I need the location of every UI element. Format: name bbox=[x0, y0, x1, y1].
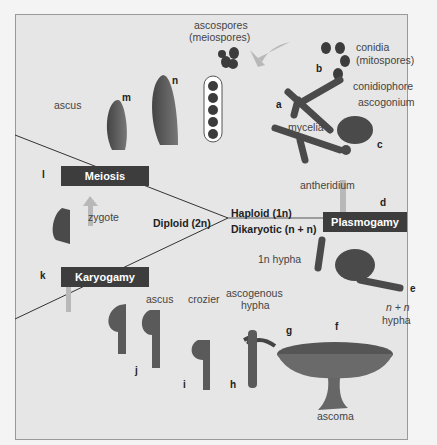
step-k: k bbox=[40, 271, 46, 281]
antheridium-label: antheridium bbox=[300, 180, 355, 191]
step-l: l bbox=[42, 170, 45, 180]
diploid-label: Diploid (2n) bbox=[153, 218, 211, 229]
ascus-m bbox=[107, 100, 127, 150]
plasmogamy-box: Plasmogamy bbox=[323, 212, 407, 232]
step-g: g bbox=[286, 326, 292, 336]
ascospores-label: ascospores bbox=[194, 20, 248, 31]
step-e: e bbox=[410, 284, 416, 294]
ascogonium-icon bbox=[337, 116, 373, 144]
step-i: i bbox=[183, 380, 186, 390]
step-n: n bbox=[172, 76, 178, 86]
meiosis-box: Meiosis bbox=[61, 166, 149, 186]
ascus-top-label: ascus bbox=[54, 100, 81, 111]
antheridium-icon bbox=[341, 145, 351, 155]
ascogonium-label: ascogonium bbox=[358, 97, 415, 108]
step-a: a bbox=[276, 100, 282, 110]
karyogamy-box: Karyogamy bbox=[61, 267, 149, 287]
meiospores-label: (meiospores) bbox=[189, 32, 250, 43]
ascogenous-label-1: ascogenous bbox=[226, 288, 283, 299]
step-h: h bbox=[230, 380, 236, 390]
ascoma-label: ascoma bbox=[317, 411, 354, 422]
mitospores-label: (mitospores) bbox=[356, 55, 414, 66]
hypha-1n-label: 1n hypha bbox=[258, 254, 301, 265]
conidiophore-label: conidiophore bbox=[353, 81, 413, 92]
step-f: f bbox=[335, 322, 338, 332]
hypha-nn-label-1: n + n bbox=[386, 302, 410, 313]
step-c: c bbox=[377, 140, 383, 150]
step-b: b bbox=[316, 64, 322, 74]
step-d: d bbox=[380, 198, 386, 208]
ascus-bottom-label: ascus bbox=[146, 294, 173, 305]
mycelia-label: mycelia bbox=[288, 122, 324, 133]
mycelia-icon bbox=[275, 80, 340, 160]
step-j: j bbox=[135, 366, 138, 376]
crozier-label: crozier bbox=[188, 294, 220, 305]
dikaryotic-label: Dikaryotic (n + n) bbox=[231, 224, 316, 235]
ascogenous-label-2: hypha bbox=[241, 300, 270, 311]
haploid-label: Haploid (1n) bbox=[231, 208, 292, 219]
zygote-icon bbox=[53, 208, 70, 244]
conidia-label: conidia bbox=[356, 42, 389, 53]
conidia-icon bbox=[321, 42, 350, 80]
zygote-label: zygote bbox=[88, 212, 119, 223]
hypha-nn-label-2: hypha bbox=[382, 315, 411, 326]
ascospores-icon bbox=[218, 47, 239, 69]
step-m: m bbox=[122, 93, 131, 103]
